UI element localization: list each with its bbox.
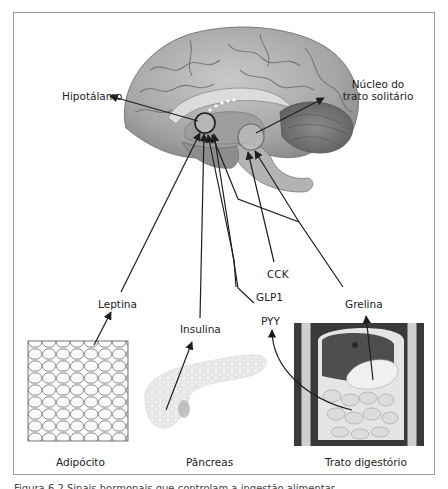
label-cck: CCK xyxy=(267,268,289,280)
label-hypothalamus: Hipotálamo xyxy=(62,90,122,102)
label-pyy: PYY xyxy=(261,315,280,327)
arrow-leptin-to-brain xyxy=(121,133,200,292)
diagram-canvas xyxy=(0,0,448,489)
label-insulin: Insulina xyxy=(180,323,221,335)
label-pancreas: Pâncreas xyxy=(186,456,233,468)
label-leptin: Leptina xyxy=(98,298,137,310)
label-nucleus-line1: Núcleo do xyxy=(338,78,418,90)
digestive-tract-image xyxy=(294,323,424,446)
adipocyte-image xyxy=(28,341,128,441)
arrow-adipocyte-to-leptin xyxy=(94,312,111,345)
figure-caption: Figura 6.2 Sinais hormonais que controla… xyxy=(14,482,335,489)
label-nucleus-line2: trato solitário xyxy=(338,90,418,102)
label-digestive-tract: Trato digestório xyxy=(325,456,407,468)
nucleus-marker xyxy=(238,124,264,150)
label-ghrelin: Grelina xyxy=(345,298,383,310)
label-glp1: GLP1 xyxy=(256,291,283,303)
label-nucleus: Núcleo do trato solitário xyxy=(338,78,418,102)
pancreas-image xyxy=(145,355,266,428)
label-adipocyte: Adipócito xyxy=(56,456,105,468)
hypothalamus-marker xyxy=(195,113,215,133)
